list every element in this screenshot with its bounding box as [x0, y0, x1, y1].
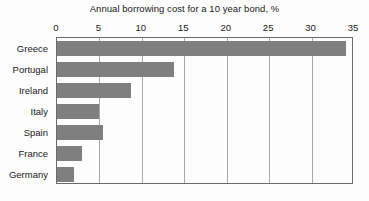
y-tick-label: Spain: [24, 126, 48, 137]
chart-title: Annual borrowing cost for a 10 year bond…: [0, 3, 369, 14]
y-tick-label: Germany: [9, 168, 48, 179]
y-tick-label: Ireland: [19, 84, 48, 95]
x-tick-label: 20: [220, 22, 231, 33]
bar: [57, 41, 346, 56]
x-tick-label: 5: [96, 22, 101, 33]
y-axis-category-labels: GreecePortugalIrelandItalySpainFranceGer…: [0, 38, 52, 184]
x-tick-label: 15: [178, 22, 189, 33]
x-tick-label: 25: [263, 22, 274, 33]
bar: [57, 167, 74, 182]
bar: [57, 146, 82, 161]
bar: [57, 62, 174, 77]
x-tick-label: 10: [136, 22, 147, 33]
bar: [57, 83, 131, 98]
x-tick-label: 30: [305, 22, 316, 33]
bar-series: [57, 38, 352, 183]
chart-figure: Annual borrowing cost for a 10 year bond…: [0, 0, 369, 201]
bar: [57, 125, 103, 140]
y-tick-label: Greece: [17, 42, 48, 53]
x-tick-label: 35: [348, 22, 359, 33]
x-tick-label: 0: [53, 22, 58, 33]
bar: [57, 104, 99, 119]
y-tick-label: Portugal: [13, 63, 48, 74]
y-tick-label: France: [18, 147, 48, 158]
y-tick-label: Italy: [31, 105, 48, 116]
plot-area: [56, 37, 353, 184]
x-axis-tick-labels: 05101520253035: [0, 22, 369, 35]
